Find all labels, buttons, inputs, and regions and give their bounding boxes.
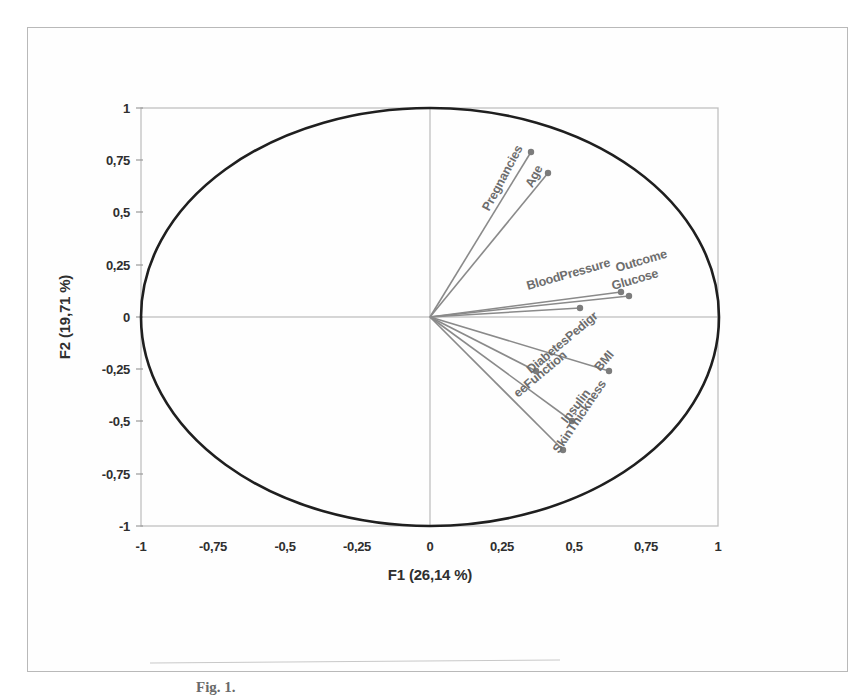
y-tick-label: 1 xyxy=(123,101,130,116)
y-tick-label: -0,25 xyxy=(102,362,130,377)
variable-label-bmi: BMI xyxy=(592,348,617,374)
x-tick-label: 1 xyxy=(715,539,722,554)
x-tick-label: 0 xyxy=(427,539,434,554)
vector-endpoint-dot xyxy=(528,149,534,155)
x-axis-title: F1 (26,14 %) xyxy=(388,566,473,583)
vector-endpoint-dot xyxy=(606,368,612,374)
y-tick-label: -0,5 xyxy=(109,414,130,429)
y-axis-tick-labels: 1 0,75 0,5 0,25 0 -0,25 -0,5 -0,75 -1 xyxy=(102,101,130,534)
pca-biplot-svg: 1 0,75 0,5 0,25 0 -0,25 -0,5 -0,75 -1 -1… xyxy=(0,0,866,695)
x-tick-label: -1 xyxy=(136,539,147,554)
figure-caption: Fig. 1. xyxy=(196,679,236,695)
x-tick-label: -0,5 xyxy=(274,539,295,554)
y-tick-label: -1 xyxy=(119,519,130,534)
y-tick-label: 0,25 xyxy=(106,258,130,273)
x-tick-label: 0,75 xyxy=(634,539,658,554)
vector-glucose xyxy=(430,293,632,317)
vector-endpoint-dot xyxy=(545,170,551,176)
variable-label-pregnancies: Pregnancies xyxy=(479,143,525,213)
x-tick-label: -0,75 xyxy=(199,539,227,554)
x-axis-tick-labels: -1 -0,75 -0,5 -0,25 0 0,25 0,5 0,75 1 xyxy=(136,539,722,554)
vector-pregnancies xyxy=(430,149,534,317)
caption-rule xyxy=(150,660,560,663)
y-tick-label: 0,5 xyxy=(113,205,130,220)
x-tick-label: 0,25 xyxy=(490,539,514,554)
vector-outcome xyxy=(430,289,624,317)
variable-label-age: Age xyxy=(522,163,545,190)
vector-endpoint-dot xyxy=(577,305,583,311)
variable-vectors xyxy=(430,149,632,453)
variable-label-bloodpressure: BloodPressure xyxy=(525,256,612,293)
vector-endpoint-dot xyxy=(626,293,632,299)
pca-biplot-figure: 1 0,75 0,5 0,25 0 -0,25 -0,5 -0,75 -1 -1… xyxy=(0,0,866,695)
y-tick-label: 0,75 xyxy=(106,153,130,168)
variable-label-diabetespedigree-line1: DiabetesPedigr xyxy=(524,309,601,377)
x-tick-label: 0,5 xyxy=(565,539,582,554)
y-tick-label: -0,75 xyxy=(102,467,130,482)
y-axis-title: F2 (19,71 %) xyxy=(56,275,73,360)
x-tick-label: -0,25 xyxy=(343,539,371,554)
y-tick-label: 0 xyxy=(123,310,130,325)
